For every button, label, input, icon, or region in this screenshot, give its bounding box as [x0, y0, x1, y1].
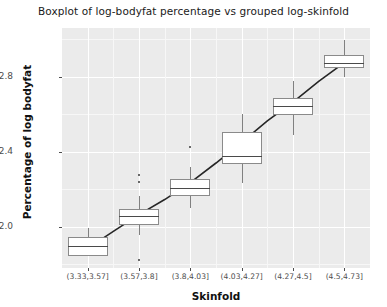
y-axis-tick-label: 2.0: [0, 221, 13, 231]
whisker-lower: [344, 68, 345, 76]
x-axis-tick-mark: [293, 268, 294, 271]
chart-title: Boxplot of log-bodyfat percentage vs gro…: [0, 5, 387, 17]
y-axis-title: Percentage of log bodyfat: [21, 47, 33, 237]
x-axis-tick-mark: [242, 268, 243, 271]
boxplot-group: [62, 28, 370, 268]
x-axis-tick-mark: [190, 268, 191, 271]
x-axis-title: Skinfold: [60, 290, 372, 302]
median-line: [324, 63, 364, 64]
x-axis-tick-label: (4.5,4.73]: [314, 272, 374, 281]
x-axis-tick-mark: [344, 268, 345, 271]
y-axis-tick-label: 2.8: [0, 71, 13, 81]
x-axis-tick-mark: [88, 268, 89, 271]
x-axis-tick-mark: [139, 268, 140, 271]
plot-panel: [62, 28, 370, 268]
y-axis-tick-label: 2.4: [0, 146, 13, 156]
whisker-upper: [344, 40, 345, 55]
chart-root: Boxplot of log-bodyfat percentage vs gro…: [0, 0, 387, 307]
